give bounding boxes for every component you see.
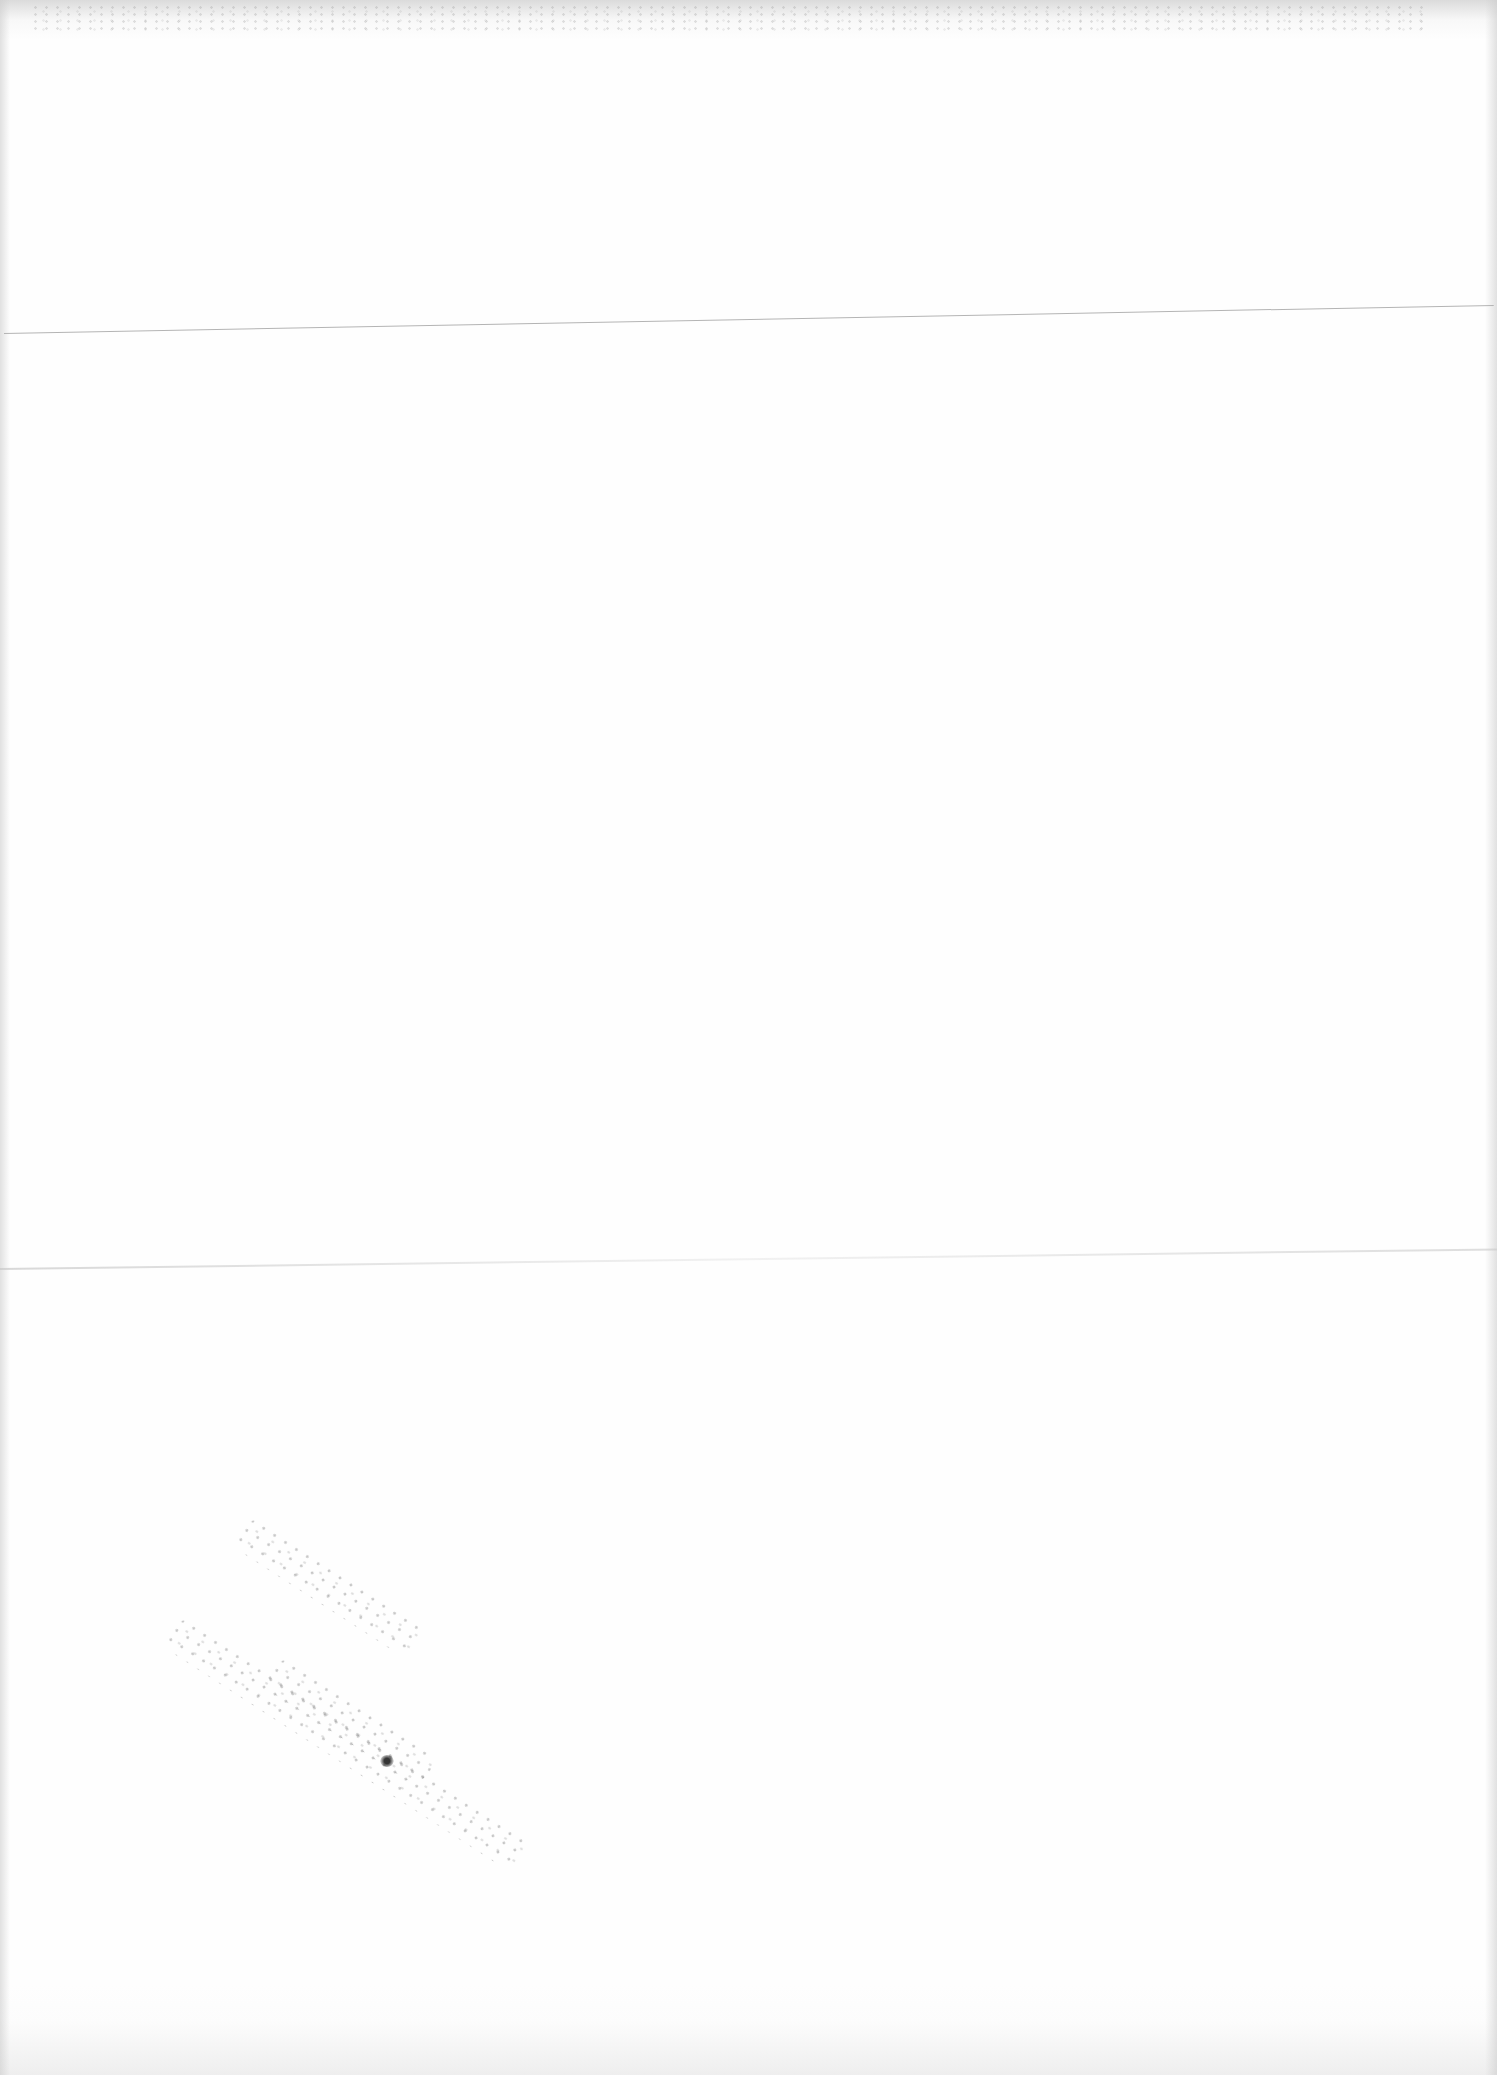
scan-edge-right	[1485, 0, 1497, 2075]
smudge-band	[160, 1613, 533, 1874]
scan-noise-top: Scanner edge noise	[30, 4, 1430, 34]
fold-line: Paper fold	[0, 1248, 1497, 1270]
horizontal-rule: Horizontal rule	[4, 305, 1494, 334]
smudge-band	[230, 1513, 427, 1659]
scan-edge-left	[0, 0, 10, 2075]
scan-edge-bottom	[0, 1985, 1497, 2075]
speckle-smudge: Speckle smudge	[170, 1500, 590, 1840]
scanned-page: Blank scanned page Scanner edge noise Ho…	[0, 0, 1497, 2075]
smudge-dark-spot	[380, 1755, 394, 1767]
